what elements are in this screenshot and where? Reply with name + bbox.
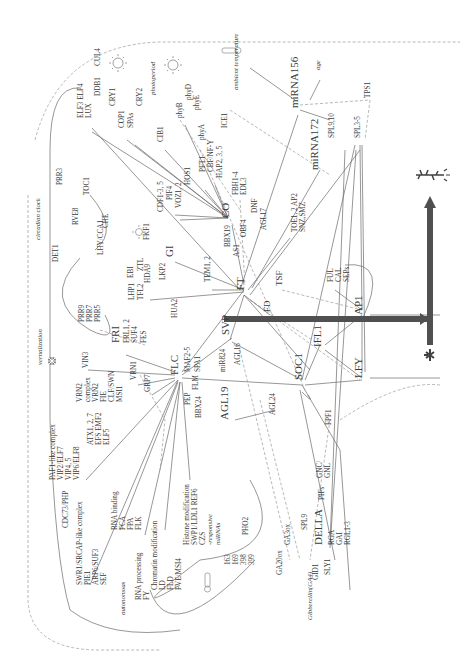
node-vip45: VIP4, 5 xyxy=(65,457,73,480)
node-fie: FIE xyxy=(100,391,108,402)
node-as1: AS1 xyxy=(233,244,241,257)
node-fld: FLD xyxy=(167,576,175,590)
node-cry1: CRY1 xyxy=(109,88,117,106)
node-co: CO xyxy=(219,203,231,218)
node-pie1: PIE1 xyxy=(84,570,92,585)
node-mir824: miR824 xyxy=(219,348,227,372)
node-cul4: CUL4 xyxy=(94,48,102,66)
node-ddb1: DDB1 xyxy=(94,77,102,96)
node-fve: FVE/MSI4 xyxy=(175,558,183,590)
node-rgl: RGL1-3 xyxy=(344,521,352,545)
flowering-plant-icon xyxy=(416,169,450,181)
node-seps: SEPs xyxy=(343,267,351,282)
node-vrn2: VRN2 xyxy=(92,383,100,402)
node-elf3: ELF3 ELF4 xyxy=(77,83,85,118)
node-svp: SVP xyxy=(219,315,231,335)
arrow-up-head xyxy=(424,196,436,208)
node-cal: CAL xyxy=(335,268,343,282)
clock-loop xyxy=(50,88,180,633)
node-lhp1: LHP1 xyxy=(128,282,136,300)
node-grp7: GRP7 xyxy=(144,374,152,392)
node-sef: SEF xyxy=(100,573,108,585)
node-fbh: FBH1-4 xyxy=(232,171,240,195)
rosette-plant-icon xyxy=(424,349,434,361)
node-lkp2: LKP2 xyxy=(159,262,167,280)
node-pho2: PHO2 xyxy=(242,517,250,535)
node-atx: ATX1, 2, 7 xyxy=(87,413,95,445)
pathway-label-circadian-clock: circadian clock xyxy=(34,197,41,240)
node-fpf1: FPF1 xyxy=(325,409,333,425)
node-bbx24: BBX24 xyxy=(195,396,203,418)
pathway-label-autonomous: autonomous xyxy=(119,581,126,615)
node-ga20ox: GA20ox xyxy=(276,550,284,575)
node-swr1: SWR1/SRCAP-like complex xyxy=(76,501,84,585)
node-ful: FUL xyxy=(327,268,335,282)
node-spl35: SPL3-5 xyxy=(354,116,362,138)
node-cop1: COP1 xyxy=(118,110,126,128)
node-spas: SPAs xyxy=(127,112,135,128)
node-suf4: SUF4 xyxy=(131,326,139,343)
node-ft: FT xyxy=(234,277,246,290)
node-rnap: RNA processing xyxy=(135,552,143,600)
node-rve8: RVE8 xyxy=(72,207,80,225)
node-mir172: miRNA172 xyxy=(308,119,320,170)
node-cdc73: CDC73/PHP xyxy=(62,491,70,528)
pathway-label-vernalization: vernalization xyxy=(36,329,43,365)
node-fpa: FPA xyxy=(127,517,135,530)
node-fkf1: FKF1 xyxy=(143,223,151,240)
node-ld: LD xyxy=(159,580,167,590)
node-tsf: TSF xyxy=(274,270,284,286)
node-phye: phyE xyxy=(193,94,201,110)
node-gid1: GID1 xyxy=(312,563,320,580)
node-resp: -responsive xyxy=(206,514,213,545)
node-fy: FY xyxy=(143,590,151,600)
node-vrn1: VRN1 xyxy=(130,361,138,380)
node-prr7: PRR7 xyxy=(86,304,94,322)
node-vip2: VIP2/ELF7 xyxy=(57,446,65,480)
node-vip6: VIP6/ELF8 xyxy=(73,446,81,480)
node-gnl: GNL xyxy=(324,463,332,478)
diagram-svg: ELF3 ELF4LUXDDB1CUL4CRY1CRY2COP1SPAsCIB1… xyxy=(0,0,461,661)
node-histone: Histone modification xyxy=(183,484,191,545)
node-ap1: AP1 xyxy=(352,295,364,315)
node-soc1: SOC1 xyxy=(292,353,304,380)
node-mir156: miRNA156 xyxy=(288,56,300,108)
node-det1: DET1 xyxy=(52,244,60,262)
node-spa1: SPA1 xyxy=(194,355,202,372)
node-cdf: CDF1-3, 5 xyxy=(157,181,165,212)
node-agl24: AGL24 xyxy=(269,393,277,415)
node-toc1: TOC1 xyxy=(83,177,91,195)
node-fri: FRI xyxy=(109,326,121,343)
node-maf: MAF2-5 xyxy=(184,346,192,372)
node-ice1: ICE1 xyxy=(221,112,229,128)
node-m399: 399 xyxy=(248,554,256,565)
node-hap: HAP2, 3, 5 xyxy=(216,145,224,178)
flowering-arrow-shaft xyxy=(224,316,429,322)
sun-icon xyxy=(164,56,182,74)
node-mirnas: miRNAs xyxy=(214,522,221,545)
node-hua2: HUA2 xyxy=(171,298,179,318)
node-pep: PEP xyxy=(184,393,192,405)
sun-icon xyxy=(109,54,127,72)
node-agl19: AGL19 xyxy=(218,386,230,420)
snowflake-icon xyxy=(46,355,58,367)
node-prr5: PRR5 xyxy=(94,304,102,322)
node-tps1: TPS1 xyxy=(364,82,372,98)
node-hda9: HDA9 xyxy=(144,263,152,283)
node-vin3: VIN3 xyxy=(82,351,90,368)
node-che: CHE xyxy=(102,213,110,228)
node-agl17: AGL17 xyxy=(260,208,268,230)
node-dnf: DNF xyxy=(251,199,259,213)
node-efs: EFS EMF2 xyxy=(95,412,103,445)
node-phyd: phyD xyxy=(185,84,193,100)
flowering-network-diagram: ELF3 ELF4LUXDDB1CUL4CRY1CRY2COP1SPAsCIB1… xyxy=(0,0,461,661)
node-flk: FLK xyxy=(135,516,143,530)
node-lux: LUX xyxy=(85,102,93,118)
node-elf5: ELF5 xyxy=(103,428,111,445)
node-m169: 169 xyxy=(232,554,240,565)
node-obf4: OBF4 xyxy=(240,219,248,237)
node-pft1: PFT1 xyxy=(199,156,207,172)
node-vozm: VOZ1, 2 xyxy=(175,182,183,208)
node-della: DELLA xyxy=(312,509,324,545)
node-chrom: Chromatin modification xyxy=(151,520,159,590)
